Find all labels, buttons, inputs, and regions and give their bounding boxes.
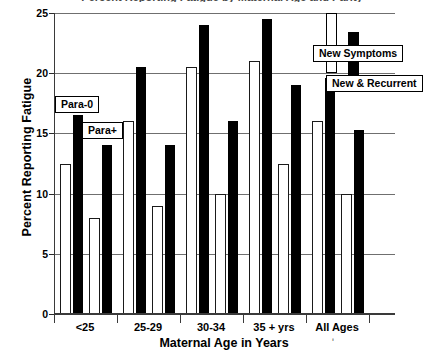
- y-tick-label: 10: [18, 188, 48, 200]
- bar: [278, 164, 289, 315]
- x-tick-label: All Ages: [301, 321, 373, 333]
- x-tick-label: 25-29: [112, 321, 184, 333]
- x-tick-label: <25: [49, 321, 121, 333]
- bar: [341, 194, 352, 314]
- y-tick-label: 0: [18, 308, 48, 320]
- bar: [354, 130, 365, 314]
- bar: [89, 218, 100, 314]
- legend-label-new-recurrent: New & Recurrent: [326, 75, 423, 92]
- y-tick-label: 20: [18, 67, 48, 79]
- annotation-para-plus: Para+: [82, 122, 123, 139]
- stray-ink-mark: ʹ: [332, 337, 334, 348]
- x-tick-mark: [369, 314, 370, 323]
- bar: [123, 121, 134, 314]
- bar: [291, 85, 302, 314]
- x-axis-title: Maternal Age in Years: [54, 336, 394, 350]
- bar: [152, 206, 163, 314]
- bar-chart: Percent Reporting Fatigue by Maternal Ag…: [0, 0, 444, 355]
- bar: [136, 67, 147, 314]
- x-tick-label: 35 + yrs: [238, 321, 310, 333]
- bar: [249, 61, 260, 314]
- x-axis-line: [54, 313, 395, 315]
- y-tick-label: 15: [18, 127, 48, 139]
- bar: [199, 25, 210, 314]
- bar: [60, 164, 71, 315]
- bar: [186, 67, 197, 314]
- legend-swatch-open: [326, 13, 337, 73]
- bar: [312, 121, 323, 314]
- bar: [73, 115, 84, 314]
- gridline: [55, 13, 395, 14]
- bar: [262, 19, 273, 314]
- y-tick-label: 5: [18, 248, 48, 260]
- legend-label-new-symptoms: New Symptoms: [313, 45, 403, 62]
- bar: [215, 194, 226, 314]
- y-tick-label: 25: [18, 7, 48, 19]
- bar: [325, 78, 336, 314]
- bar: [102, 145, 113, 314]
- bar: [228, 121, 239, 314]
- x-tick-label: 30-34: [175, 321, 247, 333]
- bar: [165, 145, 176, 314]
- chart-title: Percent Reporting Fatigue by Maternal Ag…: [0, 0, 444, 2]
- annotation-para-0: Para-0: [55, 96, 99, 113]
